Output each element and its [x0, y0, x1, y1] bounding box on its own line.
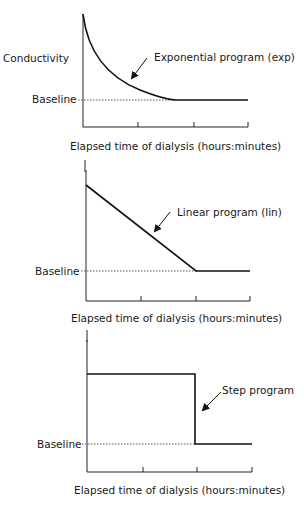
baseline-label: Baseline	[37, 438, 82, 450]
annotation-label: Step program	[222, 384, 294, 396]
lin-panel	[81, 170, 250, 301]
arrow-icon	[155, 212, 170, 231]
x-axis-label: Elapsed time of dialysis (hours:minutes)	[74, 484, 285, 496]
y-axis-label: Conductivity	[3, 52, 69, 64]
arrow-icon	[132, 58, 147, 78]
annotation-label: Linear program (lin)	[177, 206, 282, 218]
x-axis-label: Elapsed time of dialysis (hours:minutes)	[70, 140, 281, 152]
baseline-label: Baseline	[32, 93, 77, 105]
step-panel	[82, 340, 252, 472]
diagram-canvas	[0, 0, 304, 511]
arrow-icon	[203, 392, 221, 410]
baseline-label: Baseline	[35, 265, 80, 277]
exp-panel	[78, 14, 248, 127]
annotation-label: Exponential program (exp)	[154, 51, 295, 63]
lin-line	[86, 185, 250, 271]
x-axis-label: Elapsed time of dialysis (hours:minutes)	[71, 312, 282, 324]
